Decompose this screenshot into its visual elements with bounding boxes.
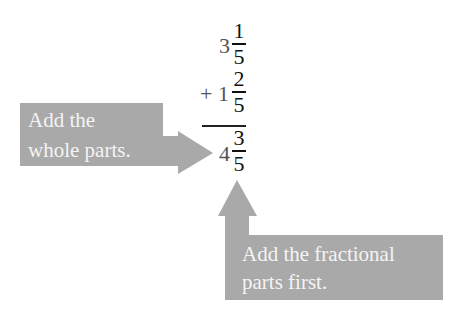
- result-numerator: 3: [234, 127, 245, 149]
- result-fraction: 3 5: [232, 127, 246, 175]
- fraction-callout-line1: Add the fractional: [242, 242, 395, 266]
- addend1-denominator: 5: [234, 46, 245, 68]
- addend2-whole: 1: [218, 83, 229, 105]
- whole-callout-line1: Add the: [28, 108, 95, 132]
- addend2-denominator: 5: [234, 94, 245, 116]
- addend2-fraction: 2 5: [232, 68, 246, 116]
- result-denominator: 5: [234, 153, 245, 175]
- result-whole: 4: [219, 143, 230, 165]
- plus-sign: +: [200, 83, 212, 105]
- addend2-numerator: 2: [234, 68, 245, 90]
- addend1-fraction: 1 5: [232, 20, 246, 68]
- addend1-numerator: 1: [234, 20, 245, 42]
- addend1-whole: 3: [219, 35, 230, 57]
- fraction-callout-line2: parts first.: [242, 270, 327, 294]
- whole-callout-line2: whole parts.: [28, 138, 131, 162]
